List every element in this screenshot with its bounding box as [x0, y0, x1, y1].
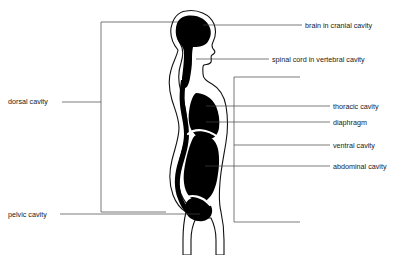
label-thoracic-cavity: thoracic cavity	[333, 102, 379, 111]
label-spinal-cord-in-vertebral-cavity: spinal cord in vertebral cavity	[272, 55, 365, 64]
label-abdominal-cavity: abdominal cavity	[333, 162, 387, 171]
label-ventral-cavity: ventral cavity	[333, 141, 375, 150]
label-dorsal-cavity: dorsal cavity	[8, 97, 48, 106]
label-pelvic-cavity: pelvic cavity	[8, 210, 47, 219]
body-cavities-diagram: dorsal cavity pelvic cavity brain in cra…	[0, 0, 404, 255]
label-brain-in-cranial-cavity: brain in cranial cavity	[305, 21, 373, 30]
label-diaphragm: diaphragm	[333, 118, 367, 127]
